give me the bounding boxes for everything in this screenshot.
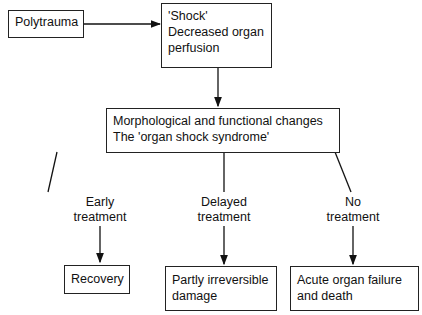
node-polytrauma: Polytrauma: [8, 10, 84, 38]
node-text: Morphological and functional changes: [113, 113, 333, 129]
node-text: 'Shock': [168, 8, 265, 24]
branch-none: [335, 152, 351, 192]
label-text: No: [315, 195, 391, 210]
branch-early: [48, 152, 57, 192]
branch-label-none: No treatment: [315, 195, 391, 225]
branch-label-delayed: Delayed treatment: [186, 195, 262, 225]
label-text: treatment: [186, 210, 262, 225]
node-text: Decreased organ: [168, 24, 265, 40]
label-text: Delayed: [186, 195, 262, 210]
label-text: treatment: [315, 210, 391, 225]
node-text: Recovery: [71, 272, 124, 286]
branch-label-early: Early treatment: [62, 195, 138, 225]
node-shock: 'Shock' Decreased organ perfusion: [161, 3, 272, 68]
node-text: Acute organ failure: [297, 272, 412, 288]
node-partly-irreversible: Partly irreversible damage: [165, 266, 277, 311]
label-text: treatment: [62, 210, 138, 225]
node-text: damage: [172, 288, 270, 304]
node-text: Partly irreversible: [172, 272, 270, 288]
node-text: The 'organ shock syndrome': [113, 129, 333, 145]
node-recovery: Recovery: [64, 265, 130, 294]
node-text: Polytrauma: [15, 15, 78, 29]
node-text: perfusion: [168, 40, 265, 56]
label-text: Early: [62, 195, 138, 210]
node-organ-shock-syndrome: Morphological and functional changes The…: [106, 108, 340, 153]
node-acute-organ-failure: Acute organ failure and death: [290, 266, 419, 311]
node-text: and death: [297, 288, 412, 304]
